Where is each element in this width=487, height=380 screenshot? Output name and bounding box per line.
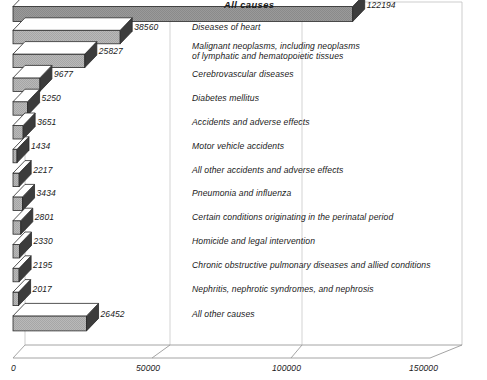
bar-category-label: Malignant neoplasms, including neoplasms… xyxy=(192,41,360,62)
axis-tick-0: 0 xyxy=(11,363,16,373)
bar-category-label: Homicide and legal intervention xyxy=(192,236,315,247)
bar-category-label: Motor vehicle accidents xyxy=(192,141,284,152)
bar-category-label: Diabetes mellitus xyxy=(192,93,259,104)
bar-category-label: All other causes xyxy=(192,309,255,320)
bar-top-face xyxy=(13,303,99,316)
axis-tick-100000: 100000 xyxy=(272,363,301,373)
bar-category-label: Nephritis, nephrotic syndromes, and neph… xyxy=(192,284,374,295)
bar-value-label: 26452 xyxy=(101,309,125,319)
bar-category-label: Cerebrovascular diseases xyxy=(192,69,294,80)
axis-tick-50000: 50000 xyxy=(136,363,160,373)
bar-category-label: Diseases of heart xyxy=(192,22,261,33)
bar-category-label: Certain conditions originating in the pe… xyxy=(192,212,393,223)
bar-category-label: All other accidents and adverse effects xyxy=(192,165,344,176)
bar-category-label: Pneumonia and influenza xyxy=(192,188,291,199)
bar-category-label: All causes xyxy=(224,0,274,10)
bar-category-label-line2: of lymphatic and hematopoietic tissues xyxy=(192,51,343,61)
bar-category-label: Accidents and adverse effects xyxy=(192,117,310,128)
axis-tick-150000: 150000 xyxy=(409,363,438,373)
bar-front-face xyxy=(13,316,87,331)
bar-chart: 1221943856025827967752503651143422173434… xyxy=(0,0,487,380)
bar-category-label: Chronic obstructive pulmonary diseases a… xyxy=(192,260,431,271)
